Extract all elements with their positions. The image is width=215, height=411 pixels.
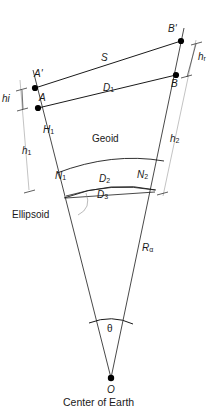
label-earth-radius-r-alpha-sub: α [149, 246, 153, 253]
label-ellipsoidal-height-h1-sub: 1 [28, 149, 32, 156]
label-distance-d2-sub: 2 [106, 177, 110, 184]
hr-lower-tick [181, 75, 192, 78]
label-ellipsoidal-height-h2-sub: 2 [176, 137, 180, 144]
label-orthometric-height-h1: H1 [43, 125, 54, 135]
label-distance-d1: D1 [103, 83, 114, 93]
label-ellipsoidal-height-h2: h2 [170, 134, 179, 144]
point-b-prime [178, 38, 184, 44]
label-undulation-n1-sub: 1 [62, 174, 66, 181]
hr-upper-tick [191, 42, 202, 45]
hr-arrow-stem [187, 44, 196, 77]
label-distance-d3-sub: 3 [104, 193, 108, 200]
point-a-prime [32, 85, 38, 91]
label-distance-d3: D3 [97, 190, 108, 200]
label-reflector-height-hr-sub: r [204, 55, 206, 62]
slope-distance-S-line [35, 41, 181, 88]
hi-upper-tick [16, 88, 27, 91]
right-dimension-guide [163, 40, 196, 196]
label-geoid: Geoid [92, 134, 119, 144]
caption-center-of-earth: Center of Earth [63, 396, 134, 408]
label-reflector-height-hr: hr [198, 52, 206, 62]
label-central-angle-theta: θ [107, 324, 113, 334]
label-orthometric-height-h1-sub: 1 [50, 128, 54, 135]
label-distance-d1-sub: 1 [110, 86, 114, 93]
dimension-lines-group [20, 40, 196, 196]
label-undulation-n2: N2 [137, 170, 148, 180]
label-slope-distance-s: S [101, 53, 108, 63]
label-distance-d2: D2 [99, 174, 110, 184]
label-b: B [171, 79, 178, 89]
label-undulation-n2-sub: 2 [144, 173, 148, 180]
left-radius-line [33, 70, 111, 378]
label-center-point-o: O [107, 385, 115, 395]
h1-bottom-tick [24, 190, 35, 193]
tick-marks-group [16, 42, 202, 195]
label-b-prime: B' [168, 24, 177, 34]
figure-canvas: A' A B' B S D1 hi hr H1 h1 h2 Geoid N1 N… [0, 0, 215, 411]
label-ellipsoidal-height-h1: h1 [22, 146, 31, 156]
point-o-center-of-earth [108, 375, 114, 381]
label-instrument-height-hi: hi [2, 94, 10, 104]
left-dimension-guide [20, 80, 29, 190]
label-ellipsoid: Ellipsoid [12, 210, 49, 220]
h2-bottom-tick [157, 192, 168, 195]
point-a [35, 105, 41, 111]
label-earth-radius-r-alpha: Rα [142, 243, 153, 253]
label-a: A [39, 93, 46, 103]
label-a-prime: A' [34, 69, 43, 79]
label-undulation-n1: N1 [55, 171, 66, 181]
